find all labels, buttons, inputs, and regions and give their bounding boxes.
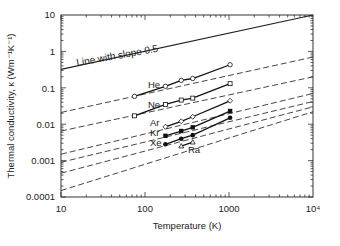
marker-he xyxy=(228,63,232,67)
marker-ne xyxy=(228,82,232,86)
y-tick-0.001: 0.001 xyxy=(31,155,55,166)
x-tick-10: 10 xyxy=(56,203,67,214)
y-tick-10: 10 xyxy=(44,9,55,20)
series-label-he: He xyxy=(148,79,160,90)
marker-ne xyxy=(163,102,167,106)
marker-he xyxy=(179,78,183,82)
y-tick-0.1: 0.1 xyxy=(42,83,55,94)
marker-ar xyxy=(228,98,233,103)
x-tick-10000: 10⁴ xyxy=(306,203,321,214)
fit-line-ar xyxy=(61,93,313,154)
marker-he xyxy=(132,94,136,98)
fit-lines xyxy=(61,15,313,191)
marker-ar xyxy=(190,114,195,119)
x-tick-1000: 1000 xyxy=(218,203,239,214)
marker-he xyxy=(191,76,195,80)
marker-xe xyxy=(179,136,184,141)
thermal-conductivity-chart: Line with slope 0.5 10 100 1000 10⁴ 10 1… xyxy=(0,0,340,246)
marker-kr xyxy=(179,129,183,133)
marker-kr xyxy=(163,134,167,138)
marker-ne xyxy=(191,96,195,100)
marker-he xyxy=(163,84,167,88)
marker-kr xyxy=(191,125,195,129)
marker-xe xyxy=(163,142,168,147)
y-tick-1: 1 xyxy=(50,46,55,57)
series-label-xe: Xe xyxy=(150,137,162,148)
x-axis-label: Temperature (K) xyxy=(153,220,222,231)
marker-ne xyxy=(179,98,183,102)
slope-line-label: Line with slope 0.5 xyxy=(75,43,159,68)
marker-kr xyxy=(228,109,232,113)
y-tick-0.01: 0.01 xyxy=(37,119,56,130)
y-tick-0.0001: 0.0001 xyxy=(26,191,55,202)
x-tick-100: 100 xyxy=(137,203,153,214)
fit-line-kr xyxy=(61,102,313,163)
marker-xe xyxy=(190,133,195,138)
marker-xe xyxy=(228,115,233,120)
marker-ar xyxy=(179,119,184,124)
marker-ne xyxy=(133,114,137,118)
series-label-ne: Ne xyxy=(148,99,160,110)
y-axis-label: Thermal conductivity, κ (Wm⁻¹K⁻¹) xyxy=(5,34,16,179)
series-label-ra: Ra xyxy=(188,144,201,155)
fit-line-xe xyxy=(61,107,313,173)
